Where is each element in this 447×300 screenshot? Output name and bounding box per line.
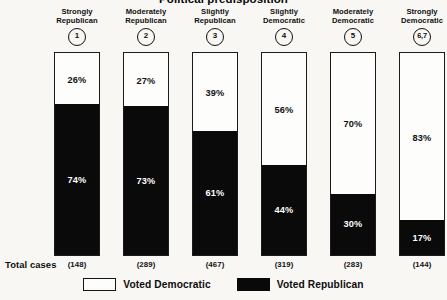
- segment-value-label: 17%: [413, 233, 432, 243]
- segment-voted-republican: 74%: [55, 104, 99, 255]
- segment-voted-democratic: 26%: [55, 53, 99, 106]
- legend-item-voted-republican: Voted Republican: [237, 278, 364, 291]
- category-label-line: Democratic: [251, 16, 317, 25]
- segment-voted-democratic: 56%: [262, 53, 306, 167]
- category-label-line: Democratic: [389, 16, 447, 25]
- segment-value-label: 73%: [137, 176, 156, 186]
- category-code-badge: 5: [344, 28, 362, 46]
- segment-value-label: 44%: [275, 205, 294, 215]
- category-label-line: Strongly: [389, 7, 447, 16]
- segment-value-label: 39%: [206, 88, 225, 98]
- category-code-badge: 1: [68, 28, 86, 46]
- segment-value-label: 27%: [137, 76, 156, 86]
- category-label-line: Slightly: [251, 7, 317, 16]
- category-label-line: Democratic: [320, 16, 386, 25]
- legend-label-voted-democratic: Voted Democratic: [123, 279, 210, 290]
- segment-value-label: 26%: [68, 75, 87, 85]
- total-cases-value-2: (289): [113, 260, 179, 269]
- segment-voted-republican: 61%: [193, 131, 237, 255]
- total-cases-value-1: (148): [44, 260, 110, 269]
- legend-label-voted-republican: Voted Republican: [277, 279, 364, 290]
- stacked-bar-6[interactable]: 83%17%: [399, 52, 445, 256]
- category-header-4: SlightlyDemocratic4: [251, 7, 317, 46]
- category-label-line: Strongly: [44, 7, 110, 16]
- stacked-bar-chart: Political predisposition StronglyRepubli…: [0, 0, 447, 300]
- category-label-line: Republican: [44, 16, 110, 25]
- legend-item-voted-democratic: Voted Democratic: [83, 278, 210, 291]
- segment-voted-democratic: 39%: [193, 53, 237, 133]
- category-label-line: Republican: [182, 16, 248, 25]
- segment-value-label: 83%: [413, 133, 432, 143]
- total-cases-value-5: (283): [320, 260, 386, 269]
- segment-voted-democratic: 70%: [331, 53, 375, 196]
- total-cases-value-3: (467): [182, 260, 248, 269]
- legend-swatch-democratic-icon: [83, 278, 116, 291]
- segment-voted-republican: 73%: [124, 106, 168, 255]
- segment-value-label: 61%: [206, 188, 225, 198]
- chart-title: Political predisposition: [0, 0, 447, 5]
- segment-voted-democratic: 27%: [124, 53, 168, 108]
- category-label-line: Slightly: [182, 7, 248, 16]
- category-header-1: StronglyRepublican1: [44, 7, 110, 46]
- stacked-bar-1[interactable]: 26%74%: [54, 52, 100, 256]
- stacked-bar-4[interactable]: 56%44%: [261, 52, 307, 256]
- category-header-2: ModeratelyRepublican2: [113, 7, 179, 46]
- category-code-badge: 4: [275, 28, 293, 46]
- segment-value-label: 70%: [344, 119, 363, 129]
- total-cases-value-6: (144): [389, 260, 447, 269]
- segment-value-label: 74%: [68, 175, 87, 185]
- category-header-6: StronglyDemocratic6,7: [389, 7, 447, 46]
- stacked-bar-3[interactable]: 39%61%: [192, 52, 238, 256]
- stacked-bar-5[interactable]: 70%30%: [330, 52, 376, 256]
- chart-legend: Voted Democratic Voted Republican: [0, 278, 447, 291]
- segment-value-label: 30%: [344, 219, 363, 229]
- segment-voted-republican: 30%: [331, 194, 375, 255]
- category-code-badge: 3: [206, 28, 224, 46]
- segment-value-label: 56%: [275, 105, 294, 115]
- segment-voted-republican: 44%: [262, 165, 306, 255]
- category-label-line: Moderately: [320, 7, 386, 16]
- stacked-bar-2[interactable]: 27%73%: [123, 52, 169, 256]
- segment-voted-republican: 17%: [400, 220, 444, 255]
- legend-swatch-republican-icon: [237, 278, 270, 291]
- total-cases-value-4: (319): [251, 260, 317, 269]
- category-code-badge: 2: [137, 28, 155, 46]
- category-label-line: Moderately: [113, 7, 179, 16]
- category-code-badge: 6,7: [413, 28, 431, 46]
- category-header-5: ModeratelyDemocratic5: [320, 7, 386, 46]
- category-label-line: Republican: [113, 16, 179, 25]
- category-header-3: SlightlyRepublican3: [182, 7, 248, 46]
- segment-voted-democratic: 83%: [400, 53, 444, 222]
